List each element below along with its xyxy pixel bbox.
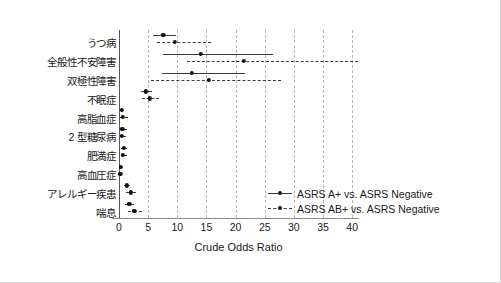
x-tick-label: 35 (317, 221, 329, 233)
x-tick-label: 40 (346, 221, 358, 233)
confidence-interval-line (151, 80, 281, 81)
series-ab-plus (119, 76, 358, 85)
category-label: 高脂血症 (12, 113, 116, 124)
category-label: 喘息 (12, 207, 116, 218)
data-point-marker (148, 96, 152, 100)
x-tick-label: 10 (171, 221, 183, 233)
data-point-marker (161, 33, 165, 37)
data-point-marker (173, 40, 177, 44)
data-point-marker (121, 153, 125, 157)
data-point-marker (242, 59, 246, 63)
data-point-marker (121, 115, 125, 119)
series-ab-plus (119, 57, 358, 66)
chart-legend: ASRS A+ vs. ASRS NegativeASRS AB+ vs. AS… (268, 186, 493, 216)
data-point-marker (144, 89, 148, 93)
category-label: 双極性障害 (12, 76, 116, 87)
x-axis-tick-labels: 0510152025303540 (119, 221, 358, 235)
legend-label: ASRS A+ vs. ASRS Negative (297, 188, 433, 200)
series-ab-plus (119, 132, 358, 141)
x-axis-baseline (112, 218, 359, 219)
category-label: うつ病 (12, 38, 116, 49)
data-point-marker (124, 183, 128, 187)
data-row (119, 106, 358, 123)
legend-entry: ASRS A+ vs. ASRS Negative (268, 186, 493, 201)
category-label: 肥満症 (12, 151, 116, 162)
confidence-interval-line (187, 61, 358, 62)
data-point-marker (118, 172, 122, 176)
data-point-marker (190, 71, 194, 75)
legend-key-icon (268, 189, 292, 198)
data-point-marker (121, 146, 125, 150)
x-tick-label: 25 (259, 221, 271, 233)
series-ab-plus (119, 170, 358, 179)
category-label: 2 型糖尿病 (12, 132, 116, 143)
data-row (119, 69, 358, 86)
data-row (119, 87, 358, 104)
data-row (119, 31, 358, 48)
data-point-marker (207, 78, 211, 82)
legend-label: ASRS AB+ vs. ASRS Negative (297, 203, 440, 215)
series-ab-plus (119, 38, 358, 47)
x-tick-label: 20 (230, 221, 242, 233)
category-label: アレルギー疾患 (12, 188, 116, 199)
data-point-marker (119, 165, 123, 169)
data-point-marker (198, 52, 202, 56)
x-tick-label: 5 (145, 221, 151, 233)
data-point-marker (127, 202, 131, 206)
x-tick-label: 30 (288, 221, 300, 233)
data-point-marker (120, 127, 124, 131)
confidence-interval-line (162, 73, 246, 74)
data-row (119, 50, 358, 67)
x-axis-title: Crude Odds Ratio (119, 241, 358, 253)
confidence-interval-line (163, 54, 273, 55)
category-label: 全般性不安障害 (12, 57, 116, 68)
confidence-interval-line (157, 42, 211, 43)
data-point-marker (120, 134, 124, 138)
x-tick-label: 0 (116, 221, 122, 233)
x-tick-label: 15 (201, 221, 213, 233)
series-ab-plus (119, 113, 358, 122)
legend-key-icon (268, 204, 292, 213)
legend-entry: ASRS AB+ vs. ASRS Negative (268, 201, 493, 216)
category-label: 高血圧症 (12, 170, 116, 181)
data-point-marker (132, 209, 136, 213)
forest-plot-figure: うつ病全般性不安障害双極性障害不眠症高脂血症2 型糖尿病肥満症高血圧症アレルギー… (0, 0, 501, 283)
data-row (119, 144, 358, 161)
category-axis-labels: うつ病全般性不安障害双極性障害不眠症高脂血症2 型糖尿病肥満症高血圧症アレルギー… (12, 34, 116, 214)
series-ab-plus (119, 151, 358, 160)
data-row (119, 125, 358, 142)
data-point-marker (128, 190, 132, 194)
data-point-marker (120, 108, 124, 112)
category-label: 不眠症 (12, 94, 116, 105)
series-ab-plus (119, 94, 358, 103)
data-row (119, 163, 358, 180)
